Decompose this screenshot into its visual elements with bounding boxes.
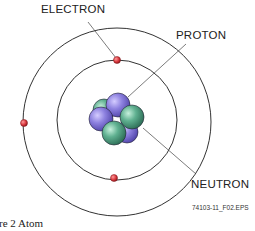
proton-label: PROTON	[176, 29, 226, 41]
electron-bottom	[111, 175, 118, 182]
figure-code: 74103-11_F02.EPS	[192, 204, 249, 211]
electron-top	[114, 57, 121, 64]
neutron-leader-line	[143, 128, 196, 174]
figure-caption: re 2 Atom	[0, 217, 43, 229]
proton-leader-line	[128, 44, 186, 97]
electron-leader-line	[88, 22, 116, 58]
neutron-bottom	[102, 121, 126, 145]
nucleus	[89, 93, 144, 145]
electron-left	[21, 120, 28, 127]
neutron-label: NEUTRON	[191, 178, 249, 190]
electron-label: ELECTRON	[41, 3, 105, 15]
inner-orbit	[57, 60, 177, 180]
